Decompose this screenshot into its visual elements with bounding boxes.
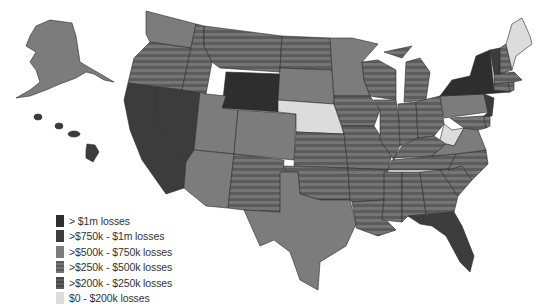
- legend-label: $0 - $200k losses: [69, 292, 150, 304]
- legend-swatch: [56, 215, 64, 227]
- state-MD: [450, 116, 486, 130]
- state-IA: [334, 96, 380, 126]
- state-AK: [16, 20, 114, 98]
- legend-item: $0 - $200k losses: [56, 291, 172, 307]
- legend-swatch: [56, 230, 64, 242]
- state-AR: [348, 168, 388, 202]
- legend-item: >$250k - $500k losses: [56, 260, 172, 276]
- state-PA: [440, 94, 488, 118]
- legend-item: > $1m losses: [56, 213, 172, 229]
- legend-label: > $1m losses: [69, 215, 130, 227]
- legend-label: >$750k - $1m losses: [69, 230, 164, 242]
- legend-label: >$250k - $500k losses: [69, 261, 172, 273]
- state-KS: [294, 132, 348, 168]
- state-SD: [278, 68, 334, 104]
- legend-item: >$750k - $1m losses: [56, 229, 172, 245]
- legend-swatch: [56, 292, 64, 304]
- legend-swatch: [56, 261, 64, 273]
- legend-item: >$500k - $750k losses: [56, 244, 172, 260]
- state-ME: [506, 18, 532, 70]
- legend-swatch: [56, 277, 64, 289]
- state-ND: [280, 36, 332, 70]
- legend-item: >$200k - $250k losses: [56, 275, 172, 291]
- map-legend: > $1m losses >$750k - $1m losses >$500k …: [56, 213, 172, 306]
- state-MS: [382, 172, 402, 222]
- state-NM: [228, 154, 284, 212]
- legend-swatch: [56, 246, 64, 258]
- state-CO: [234, 110, 296, 160]
- state-OR: [128, 42, 191, 90]
- legend-label: >$500k - $750k losses: [69, 246, 172, 258]
- state-HI: [34, 114, 99, 162]
- state-FL: [408, 212, 474, 272]
- state-WY: [222, 72, 280, 112]
- legend-label: >$200k - $250k losses: [69, 277, 172, 289]
- state-MT: [204, 26, 282, 72]
- state-AZ: [184, 150, 234, 208]
- state-OH: [416, 96, 444, 138]
